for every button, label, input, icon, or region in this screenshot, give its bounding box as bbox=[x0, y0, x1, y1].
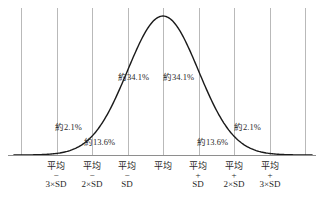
gridline bbox=[305, 8, 306, 155]
tick-label-sign: − bbox=[118, 172, 136, 179]
percentage-annotation: 約13.6% bbox=[197, 138, 228, 147]
tick-label-sign: + bbox=[189, 172, 207, 179]
x-axis-tick-label: 平均−2×SD bbox=[81, 162, 102, 189]
percentage-annotation: 約34.1% bbox=[163, 73, 194, 82]
percentage-annotation: 約2.1% bbox=[234, 123, 261, 132]
x-axis-tick-label: 平均−3×SD bbox=[45, 162, 66, 189]
tick-label-sign bbox=[154, 172, 172, 179]
x-axis-tick-label: 平均−SD bbox=[118, 162, 136, 189]
x-axis-tick-label: 平均+2×SD bbox=[223, 162, 244, 189]
tick-label-sign: + bbox=[223, 172, 244, 179]
percentage-annotation: 約13.6% bbox=[84, 138, 115, 147]
tick-label-sd: SD bbox=[118, 180, 136, 189]
x-axis-tick-label: 平均 bbox=[154, 162, 172, 180]
gridline bbox=[57, 8, 58, 155]
tick-label-sd: 3×SD bbox=[45, 180, 66, 189]
gridline bbox=[92, 8, 93, 155]
tick-label-sd: SD bbox=[189, 180, 207, 189]
tick-label-sd: 2×SD bbox=[81, 180, 102, 189]
percentage-annotation: 約34.1% bbox=[118, 73, 149, 82]
tick-label-sd: 2×SD bbox=[223, 180, 244, 189]
tick-label-sign: − bbox=[45, 172, 66, 179]
percentage-annotation: 約2.1% bbox=[55, 123, 82, 132]
gridline bbox=[234, 8, 235, 155]
x-axis bbox=[8, 155, 316, 156]
x-axis-tick-label: 平均+SD bbox=[189, 162, 207, 189]
tick-label-sign: + bbox=[259, 172, 280, 179]
tick-label-sign: − bbox=[81, 172, 102, 179]
normal-distribution-chart: 約2.1%約13.6%約34.1%約34.1%約13.6%約2.1% 平均−3×… bbox=[0, 0, 323, 200]
tick-label-mean: 平均 bbox=[154, 162, 172, 171]
x-axis-tick-label: 平均+3×SD bbox=[259, 162, 280, 189]
gridline bbox=[270, 8, 271, 155]
gridline bbox=[21, 8, 22, 155]
tick-label-sd: 3×SD bbox=[259, 180, 280, 189]
gridline bbox=[199, 8, 200, 155]
